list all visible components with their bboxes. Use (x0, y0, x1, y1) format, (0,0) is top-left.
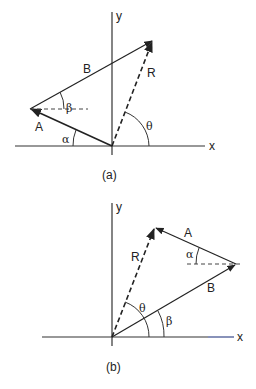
label-beta-b: β (166, 315, 172, 328)
label-a-b: A (184, 226, 192, 240)
figure-a: x y B R A β α θ (a) (15, 9, 215, 182)
label-b-b: B (207, 281, 215, 295)
label-theta-b: θ (139, 302, 146, 315)
vector-b-b (112, 265, 235, 337)
caption-b: (b) (106, 360, 121, 374)
alpha-arc-a (73, 130, 76, 146)
label-r-b: R (131, 250, 140, 264)
y-axis-label-a: y (116, 9, 122, 23)
label-b-a: B (83, 62, 91, 76)
vector-addition-diagram: x y B R A β α θ (a) x y (0, 0, 256, 389)
beta-arc-b (158, 311, 164, 337)
alpha-arc-b (196, 248, 199, 264)
x-axis-label-a: x (209, 139, 215, 153)
label-alpha-b: α (186, 248, 194, 261)
label-beta-a: β (66, 102, 72, 115)
beta-arc-a (60, 92, 64, 109)
label-alpha-a: α (62, 133, 70, 146)
figure-b: x y A α R B θ β (b) (42, 200, 243, 374)
caption-a: (a) (102, 168, 117, 182)
x-axis-label-b: x (237, 330, 243, 344)
vector-r-b (112, 229, 154, 337)
y-axis-label-b: y (116, 200, 122, 214)
label-theta-a: θ (146, 120, 153, 133)
label-a-a: A (35, 120, 43, 134)
label-r-a: R (147, 66, 156, 80)
